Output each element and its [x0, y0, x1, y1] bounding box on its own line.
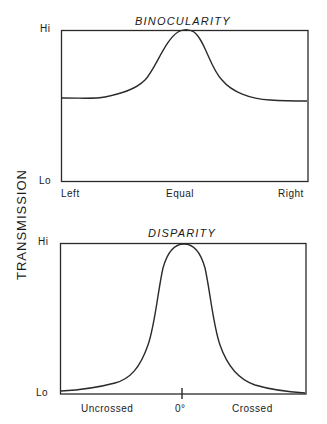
top-chart-frame [62, 31, 309, 182]
bottom-chart-curve [61, 244, 305, 393]
charts-canvas [0, 0, 327, 424]
bottom-chart-frame [61, 244, 307, 395]
top-chart-curve [62, 30, 307, 101]
